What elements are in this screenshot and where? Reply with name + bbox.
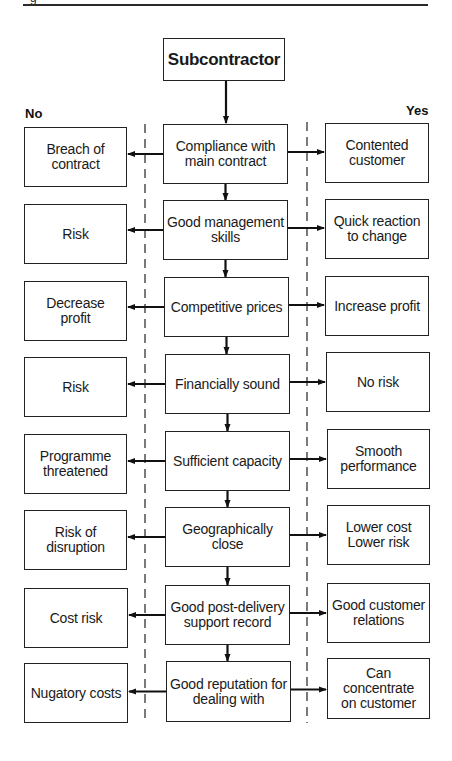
criterion-box: Competitive prices <box>164 277 289 337</box>
no-label: No <box>25 106 42 121</box>
no-outcome-box: Decrease profit <box>24 281 127 341</box>
yes-label: Yes <box>406 103 428 118</box>
criterion-label: Geographically close <box>182 522 273 552</box>
no-outcome-box: Breach of contract <box>24 127 127 187</box>
criterion-box: Sufficient capacity <box>165 431 290 491</box>
yes-outcome-box: Smooth performance <box>327 429 430 489</box>
criterion-box: Geographically close <box>165 507 290 567</box>
criterion-label: Competitive prices <box>171 300 283 315</box>
yes-outcome-box: Contented customer <box>325 123 429 183</box>
criterion-label: Good reputation for dealing with <box>170 677 287 707</box>
criterion-label: Good post-delivery support record <box>171 600 285 630</box>
no-outcome-box: Risk <box>24 204 127 264</box>
criterion-label: Financially sound <box>175 377 280 392</box>
yes-outcome-box: Increase profit <box>325 276 429 336</box>
criterion-box: Financially sound <box>165 354 290 414</box>
no-outcome-label: Breach of contract <box>46 142 104 172</box>
diagram-canvas: g Subcontractor No Yes Breach of contrac… <box>0 0 452 761</box>
no-outcome-box: Cost risk <box>24 588 128 648</box>
no-outcome-label: Nugatory costs <box>31 686 122 701</box>
yes-outcome-box: No risk <box>326 352 430 412</box>
yes-outcome-label: Good customer relations <box>332 598 425 628</box>
yes-outcome-box: Can concentrate on customer <box>327 658 430 719</box>
criterion-box: Good post-delivery support record <box>165 585 290 645</box>
criterion-label: Good management skills <box>167 215 284 245</box>
criterion-label: Sufficient capacity <box>173 454 282 469</box>
root-node-subcontractor: Subcontractor <box>163 38 285 81</box>
yes-outcome-label: Increase profit <box>334 299 420 314</box>
no-outcome-box: Risk of disruption <box>24 510 127 570</box>
criterion-box: Good management skills <box>163 200 288 260</box>
no-outcome-box: Nugatory costs <box>24 663 128 723</box>
yes-outcome-label: Smooth performance <box>340 444 416 474</box>
yes-outcome-label: Contented customer <box>346 138 409 168</box>
root-node-label: Subcontractor <box>168 52 280 67</box>
yes-outcome-label: Quick reaction to change <box>334 214 421 244</box>
criterion-label: Compliance with main contract <box>176 139 276 169</box>
no-outcome-box: Risk <box>24 357 127 417</box>
no-outcome-label: Cost risk <box>50 611 103 626</box>
no-outcome-label: Risk <box>62 227 88 242</box>
no-outcome-label: Decrease profit <box>46 296 104 326</box>
no-outcome-label: Risk <box>62 380 88 395</box>
no-outcome-box: Programme threatened <box>24 434 127 494</box>
yes-outcome-label: No risk <box>357 375 399 390</box>
yes-outcome-box: Lower cost Lower risk <box>327 505 430 565</box>
criterion-box: Compliance with main contract <box>163 124 288 184</box>
no-outcome-label: Programme threatened <box>40 449 111 479</box>
yes-outcome-box: Good customer relations <box>327 583 430 643</box>
criterion-box: Good reputation for dealing with <box>166 661 291 722</box>
yes-outcome-box: Quick reaction to change <box>325 199 429 259</box>
no-outcome-label: Risk of disruption <box>46 525 105 555</box>
yes-outcome-label: Can concentrate on customer <box>331 666 426 711</box>
yes-outcome-label: Lower cost Lower risk <box>346 520 412 550</box>
